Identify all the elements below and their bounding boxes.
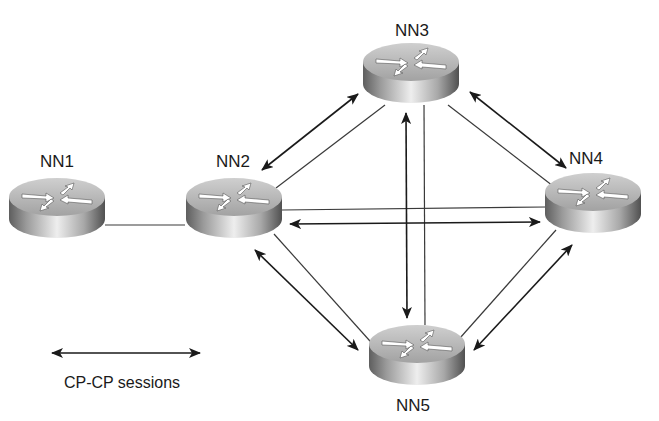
router-icon: [369, 325, 465, 385]
node-label-nn3: NN3: [395, 21, 429, 40]
node-label-nn2: NN2: [216, 152, 250, 171]
node-nn1: NN1: [9, 152, 105, 238]
session-arrow-nn3-nn5: [406, 113, 407, 318]
cp-cp-sessions: [255, 92, 572, 350]
session-arrow-nn2-nn3: [262, 94, 358, 170]
physical-links: [105, 105, 556, 350]
link-nn2-nn4: [282, 207, 546, 210]
diagram-svg: NN1 NN2 NN3 NN4 NN5 CP-CP sessions: [0, 0, 659, 421]
node-label-nn4: NN4: [569, 149, 603, 168]
node-nn3: NN3: [363, 21, 459, 103]
network-diagram: NN1 NN2 NN3 NN4 NN5 CP-CP sessions: [0, 0, 659, 421]
session-arrow-nn2-nn5: [255, 250, 358, 350]
session-arrow-nn2-nn4: [290, 222, 540, 224]
node-label-nn5: NN5: [396, 396, 430, 415]
link-nn2-nn5: [274, 234, 378, 350]
legend: CP-CP sessions: [52, 353, 200, 391]
router-icon: [9, 178, 105, 238]
node-label-nn1: NN1: [40, 152, 74, 171]
link-nn3-nn5: [424, 105, 425, 325]
router-icon: [545, 173, 641, 233]
session-arrow-nn4-nn5: [474, 245, 572, 350]
router-icon: [363, 43, 459, 103]
link-nn4-nn5: [460, 230, 556, 338]
router-icon: [186, 178, 282, 238]
node-nn4: NN4: [545, 149, 641, 233]
node-nn5: NN5: [369, 325, 465, 415]
session-arrow-nn3-nn4: [470, 92, 566, 168]
legend-label: CP-CP sessions: [64, 374, 180, 391]
